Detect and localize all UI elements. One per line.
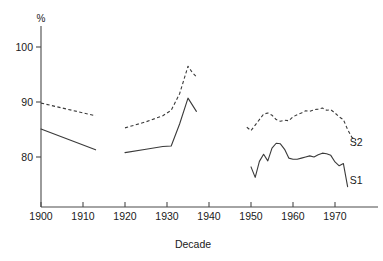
x-axis-tick-label: 1930: [155, 210, 179, 222]
series-layer: [41, 66, 356, 186]
x-axis-tick-label: 1950: [239, 210, 263, 222]
chart-container: 809010019001910192019301940195019601970 …: [0, 0, 383, 261]
x-axis-tick-label: 1960: [281, 210, 305, 222]
series-line-s2-segment-3: [247, 108, 356, 140]
x-axis-tick-label: 1910: [71, 210, 95, 222]
series-line-s1-segment-3: [251, 143, 348, 186]
series-label-layer: S2S1: [350, 136, 363, 185]
x-axis-tick-label: 1970: [323, 210, 347, 222]
series-line-s2-segment-2: [125, 66, 196, 128]
y-axis-tick-label: 90: [21, 96, 33, 108]
tick-label-layer: 809010019001910192019301940195019601970: [15, 41, 346, 222]
axis-layer: [36, 26, 378, 207]
x-axis-tick-label: 1940: [197, 210, 221, 222]
series-line-s1-segment-1: [41, 129, 96, 150]
x-axis-tick-label: 1900: [29, 210, 53, 222]
y-axis-unit-label: %: [37, 13, 46, 24]
series-label-s1: S1: [350, 174, 363, 186]
line-chart: 809010019001910192019301940195019601970 …: [0, 0, 383, 261]
series-line-s2-segment-1: [41, 103, 96, 116]
x-axis-title: Decade: [175, 238, 211, 250]
y-axis-tick-label: 80: [21, 151, 33, 163]
y-axis-tick-label: 100: [15, 41, 33, 53]
x-axis-tick-label: 1920: [113, 210, 137, 222]
series-line-s1-segment-2: [125, 98, 196, 152]
series-label-s2: S2: [350, 136, 363, 148]
